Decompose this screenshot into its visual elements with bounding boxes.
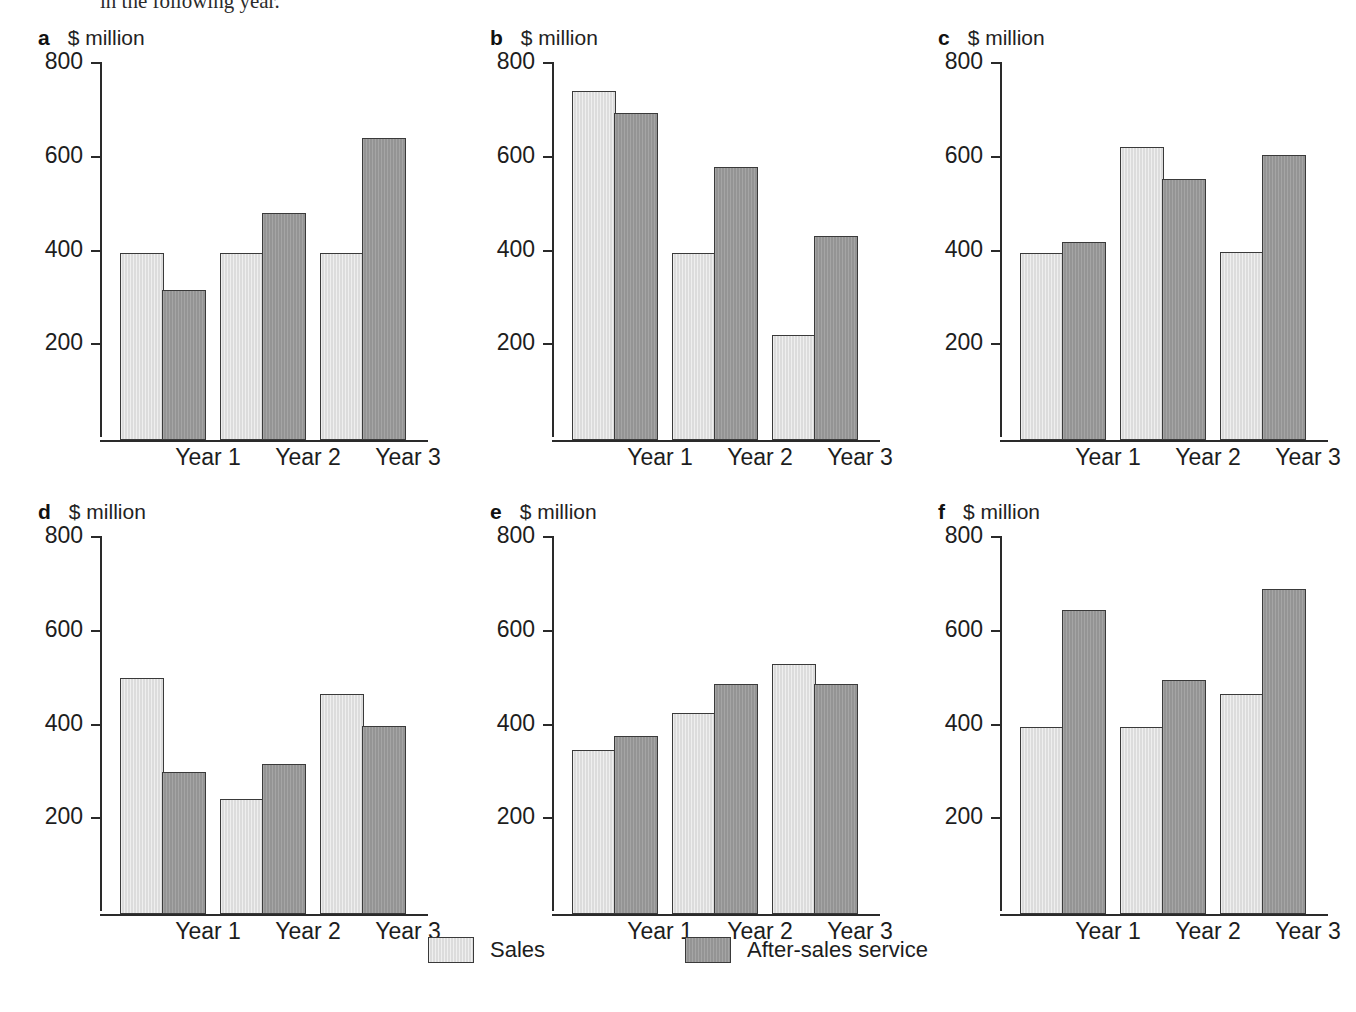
bar-f-2-service — [1162, 680, 1206, 914]
plot-area-b: 800600400200Year 1Year 2Year 3 — [552, 62, 882, 442]
bar-group-f-2 — [1120, 541, 1206, 914]
legend-label-after-sales-service: After-sales service — [747, 937, 928, 963]
y-tick-f-400: 400 — [991, 724, 1002, 726]
y-tick-e-800: 800 — [543, 536, 554, 538]
y-tick-c-600: 600 — [991, 156, 1002, 158]
x-axis-labels-c: Year 1Year 2Year 3 — [1002, 442, 1328, 476]
y-tick-label-d-200: 200 — [45, 804, 83, 828]
y-tick-b-400: 400 — [543, 250, 554, 252]
y-tick-label-a-800: 800 — [45, 49, 83, 73]
y-tick-d-800: 800 — [91, 536, 102, 538]
x-label-c-3: Year 3 — [1238, 442, 1356, 472]
y-tick-a-200: 200 — [91, 343, 102, 345]
panel-unit-label-a: $ million — [68, 26, 145, 50]
y-tick-label-d-400: 400 — [45, 711, 83, 735]
bar-b-3-service — [814, 236, 858, 440]
y-tick-label-c-200: 200 — [945, 330, 983, 354]
bar-group-f-3 — [1220, 541, 1306, 914]
bar-group-d-2 — [220, 541, 306, 914]
bar-d-3-sales — [320, 694, 364, 914]
bar-c-3-service — [1262, 155, 1306, 440]
panel-unit-label-f: $ million — [963, 500, 1040, 524]
panel-unit-label-d: $ million — [69, 500, 146, 524]
bar-b-3-sales — [772, 335, 816, 440]
y-tick-label-a-600: 600 — [45, 143, 83, 167]
y-tick-f-800: 800 — [991, 536, 1002, 538]
bar-e-1-sales — [572, 750, 616, 914]
y-tick-label-b-200: 200 — [497, 330, 535, 354]
y-tick-label-c-400: 400 — [945, 237, 983, 261]
bar-a-2-service — [262, 213, 306, 440]
y-tick-d-200: 200 — [91, 817, 102, 819]
panel-letter-a: a — [38, 26, 50, 50]
bar-e-2-sales — [672, 713, 716, 914]
bar-b-2-sales — [672, 253, 716, 441]
plot-area-e: 800600400200Year 1Year 2Year 3 — [552, 536, 882, 916]
bar-d-2-sales — [220, 799, 264, 914]
bar-c-2-sales — [1120, 147, 1164, 440]
plot-area-a: 800600400200Year 1Year 2Year 3 — [100, 62, 430, 442]
y-tick-a-600: 600 — [91, 156, 102, 158]
y-tick-d-600: 600 — [91, 630, 102, 632]
legend-label-sales: Sales — [490, 937, 545, 963]
y-tick-label-e-200: 200 — [497, 804, 535, 828]
y-tick-label-c-600: 600 — [945, 143, 983, 167]
panel-letter-b: b — [490, 26, 503, 50]
bar-group-a-3 — [320, 67, 406, 440]
y-tick-b-800: 800 — [543, 62, 554, 64]
bar-group-d-3 — [320, 541, 406, 914]
y-tick-label-f-200: 200 — [945, 804, 983, 828]
y-tick-c-800: 800 — [991, 62, 1002, 64]
y-tick-b-600: 600 — [543, 156, 554, 158]
panel-unit-label-b: $ million — [521, 26, 598, 50]
y-tick-b-200: 200 — [543, 343, 554, 345]
chart-panel-f: f$ million800600400200Year 1Year 2Year 3 — [900, 500, 1352, 960]
legend-item-sales: Sales — [428, 937, 545, 963]
y-tick-f-600: 600 — [991, 630, 1002, 632]
bar-e-3-service — [814, 684, 858, 914]
bar-a-1-service — [162, 290, 206, 440]
y-tick-label-a-400: 400 — [45, 237, 83, 261]
plot-area-c: 800600400200Year 1Year 2Year 3 — [1000, 62, 1330, 442]
bar-d-1-service — [162, 772, 206, 914]
bar-a-1-sales — [120, 253, 164, 441]
chart-panel-d: d$ million800600400200Year 1Year 2Year 3 — [0, 500, 452, 960]
y-tick-d-400: 400 — [91, 724, 102, 726]
y-tick-label-e-600: 600 — [497, 617, 535, 641]
bar-container-c — [1002, 67, 1328, 440]
plot-area-f: 800600400200Year 1Year 2Year 3 — [1000, 536, 1330, 916]
chart-panel-c: c$ million800600400200Year 1Year 2Year 3 — [900, 26, 1352, 486]
bar-group-b-2 — [672, 67, 758, 440]
bar-container-f — [1002, 541, 1328, 914]
bar-f-1-sales — [1020, 727, 1064, 915]
bar-c-2-service — [1162, 179, 1206, 440]
chart-panel-b: b$ million800600400200Year 1Year 2Year 3 — [452, 26, 904, 486]
bar-group-c-3 — [1220, 67, 1306, 440]
plot-area-d: 800600400200Year 1Year 2Year 3 — [100, 536, 430, 916]
y-tick-e-400: 400 — [543, 724, 554, 726]
y-tick-label-f-400: 400 — [945, 711, 983, 735]
bar-group-e-2 — [672, 541, 758, 914]
bar-e-1-service — [614, 736, 658, 914]
bar-f-2-sales — [1120, 727, 1164, 915]
y-tick-label-c-800: 800 — [945, 49, 983, 73]
bar-group-a-1 — [120, 67, 206, 440]
panel-letter-d: d — [38, 500, 51, 524]
y-tick-e-200: 200 — [543, 817, 554, 819]
legend-swatch-sales — [428, 937, 474, 963]
y-tick-a-800: 800 — [91, 62, 102, 64]
chart-legend: SalesAfter-sales service — [0, 930, 1356, 970]
bar-a-2-sales — [220, 253, 264, 441]
bar-container-d — [102, 541, 428, 914]
bar-b-1-service — [614, 113, 658, 440]
y-tick-label-f-800: 800 — [945, 523, 983, 547]
bar-group-e-1 — [572, 541, 658, 914]
x-axis-labels-b: Year 1Year 2Year 3 — [554, 442, 880, 476]
bar-group-b-3 — [772, 67, 858, 440]
bar-c-1-sales — [1020, 253, 1064, 441]
chart-panel-e: e$ million800600400200Year 1Year 2Year 3 — [452, 500, 904, 960]
bar-a-3-service — [362, 138, 406, 440]
y-tick-c-200: 200 — [991, 343, 1002, 345]
bar-f-3-sales — [1220, 694, 1264, 914]
y-tick-label-a-200: 200 — [45, 330, 83, 354]
